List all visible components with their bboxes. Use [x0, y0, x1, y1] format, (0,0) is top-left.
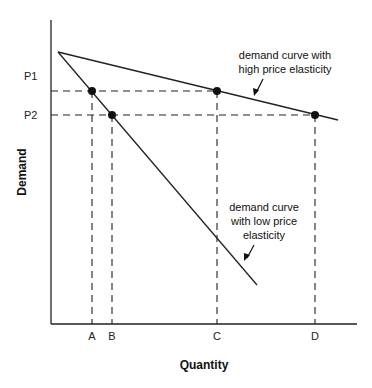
d-label: D — [311, 330, 319, 342]
intersection-points — [88, 87, 319, 119]
low-elasticity-annotation-line1: demand curve — [229, 201, 299, 213]
p2-label: P2 — [24, 109, 37, 121]
high-elasticity-annotation-line2: high price elasticity — [239, 63, 332, 75]
x-axis-title: Quantity — [180, 358, 229, 372]
low-elasticity-annotation-line2: with low price — [230, 215, 297, 227]
low-elasticity-annotation-line3: elasticity — [243, 229, 286, 241]
point-p2-d — [311, 111, 319, 119]
c-label: C — [213, 330, 221, 342]
high-elasticity-arrow-icon — [253, 79, 263, 96]
point-p1-a — [88, 87, 96, 95]
high-elasticity-annotation-line1: demand curve with — [239, 49, 331, 61]
point-p2-b — [108, 111, 116, 119]
b-label: B — [108, 330, 115, 342]
p1-label: P1 — [24, 70, 37, 82]
y-axis-title: Demand — [15, 148, 29, 195]
a-label: A — [88, 330, 96, 342]
demand-elasticity-chart: P1 P2 A B C D Quantity Demand demand cur… — [0, 0, 372, 388]
low-elasticity-arrow-icon — [244, 245, 254, 261]
low-elasticity-curve — [58, 52, 257, 285]
point-p1-c — [213, 87, 221, 95]
